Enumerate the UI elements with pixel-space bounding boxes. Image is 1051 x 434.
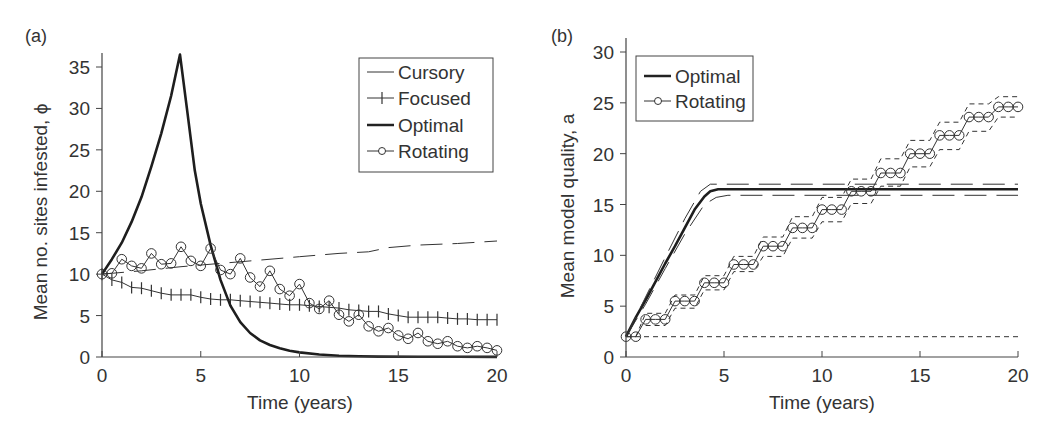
panel-b-plot-area: [621, 97, 1023, 342]
panel-b-legend: Optimal Rotating: [636, 56, 753, 121]
y-tick-label: 20: [69, 181, 90, 202]
panel-b-x-axis-title: Time (years): [769, 392, 875, 413]
x-tick-label: 10: [811, 365, 832, 386]
series-rotating: [97, 242, 502, 355]
legend-rotating-label: Rotating: [398, 141, 469, 162]
y-tick-label: 30: [593, 42, 614, 63]
y-tick-label: 0: [79, 347, 90, 368]
legend-optimal-label: Optimal: [675, 66, 740, 87]
x-tick-label: 20: [486, 365, 507, 386]
panel-a-x-axis-title: Time (years): [247, 392, 353, 413]
panel-a-label: (a): [25, 26, 47, 46]
legend-optimal-label: Optimal: [398, 115, 463, 136]
series-optimal-lower-band: [626, 195, 1018, 336]
y-tick-label: 0: [603, 347, 614, 368]
x-tick-label: 0: [621, 365, 632, 386]
series-focused: [102, 268, 497, 326]
x-tick-label: 10: [289, 365, 310, 386]
y-tick-label: 25: [593, 93, 614, 114]
panel-b-chart: (b) 05101520253005101520 Time (years) Me…: [551, 26, 1029, 413]
legend-focused-label: Focused: [398, 88, 471, 109]
panel-a-legend: Cursory Focused Optimal Rotating: [359, 58, 493, 172]
series-optimal-upper-band: [626, 184, 1018, 337]
panel-a-chart: (a) 0510152025303505101520 Time (years) …: [25, 26, 508, 413]
y-tick-label: 15: [69, 223, 90, 244]
x-tick-label: 5: [195, 365, 206, 386]
y-tick-label: 30: [69, 98, 90, 119]
y-tick-label: 25: [69, 140, 90, 161]
panel-b-y-axis-title: Mean model quality, a: [557, 113, 578, 298]
y-tick-label: 20: [593, 144, 614, 165]
series-optimal: [626, 189, 1018, 336]
y-tick-label: 10: [593, 245, 614, 266]
x-tick-label: 15: [388, 365, 409, 386]
y-tick-label: 15: [593, 195, 614, 216]
x-tick-label: 0: [97, 365, 108, 386]
y-tick-label: 10: [69, 264, 90, 285]
panel-b-label: (b): [551, 26, 573, 46]
legend-rotating-label: Rotating: [675, 91, 746, 112]
x-tick-label: 15: [909, 365, 930, 386]
y-tick-label: 5: [603, 296, 614, 317]
x-tick-label: 5: [719, 365, 730, 386]
x-tick-label: 20: [1007, 365, 1028, 386]
panel-a-y-axis-title: Mean no. sites infested, ϕ: [30, 104, 51, 321]
figure: (a) 0510152025303505101520 Time (years) …: [0, 0, 1051, 434]
legend-cursory-label: Cursory: [398, 62, 465, 83]
y-tick-label: 35: [69, 57, 90, 78]
y-tick-label: 5: [79, 306, 90, 327]
